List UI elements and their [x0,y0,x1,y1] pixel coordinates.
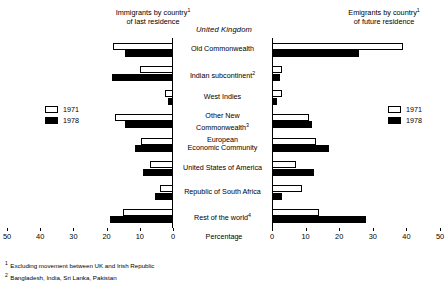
tick-label: 40 [402,232,410,241]
axis-caption: Percentage [188,232,260,241]
tick-label: 40 [36,232,44,241]
bar-right-1971 [272,138,316,145]
tick-label: 20 [102,232,110,241]
category-label: Republic of South Africa [173,188,272,196]
category-label: United States of America [173,164,272,172]
tick-mark [73,228,74,231]
legend-swatch-1971-icon [388,106,401,113]
right-heading-line2: of future residence [354,17,414,26]
bar-left-1978 [135,145,173,152]
legend-left-item-1971: 1971 [45,104,79,115]
footnote: 1Excluding movement between UK and Irish… [5,259,305,271]
immigrants-plot-area [7,38,173,228]
category-label: Rest of the world4 [173,211,272,223]
tick-label: 10 [301,232,309,241]
bar-right-1971 [272,66,282,73]
legend-swatch-1978-icon [45,117,58,124]
tick-label: 30 [69,232,77,241]
legend-right: 1971 1978 [388,104,422,126]
tick-mark [107,228,108,231]
tick-label: 0 [171,232,175,241]
bar-right-1978 [272,216,366,223]
legend-left: 1971 1978 [45,104,79,126]
bar-right-1971 [272,185,302,192]
tick-label: 50 [436,232,444,241]
footnote: 2Bangladesh, India, Sri Lanka, Pakistan [5,271,305,283]
tick-label: 30 [369,232,377,241]
bar-left-1978 [112,74,173,81]
chart-title: United Kingdom [150,25,298,34]
category-label: Other NewCommonwealth3 [173,112,272,132]
category-label-column: Old CommonwealthIndian subcontinent2West… [173,38,272,228]
bar-right-1971 [272,90,282,97]
tick-mark [339,228,340,231]
footnote-number: 1 [5,260,8,266]
right-axis-ticks: 01020304050 [268,228,448,244]
chart-root: Immigrants by country1 of last residence… [0,0,448,283]
bar-right-1978 [272,169,314,176]
legend-left-item-1978: 1978 [45,115,79,126]
footnote-text: Excluding movement between UK and Irish … [10,262,154,269]
right-panel-heading: Emigrants by country1 of future residenc… [320,6,448,27]
bar-right-1978 [272,193,282,200]
tick-label: 20 [335,232,343,241]
legend-right-label-1978: 1978 [406,116,422,125]
bar-right-1978 [272,145,329,152]
bar-left-1978 [125,121,173,128]
bar-right-1978 [272,98,277,105]
bar-left-1978 [155,193,173,200]
category-footnote-ref: 4 [248,212,251,218]
bar-right-1971 [272,114,309,121]
category-label: Old Commonwealth [173,45,272,53]
bar-right-1971 [272,43,403,50]
category-label: West Indies [173,93,272,101]
bar-left-1978 [143,169,173,176]
tick-label: 50 [3,232,11,241]
legend-right-label-1971: 1971 [406,105,422,114]
tick-mark [7,228,8,231]
footnotes: 1Excluding movement between UK and Irish… [5,259,305,282]
category-footnote-ref: 3 [246,122,249,128]
bar-right-1978 [272,121,312,128]
tick-label: 10 [136,232,144,241]
tick-mark [140,228,141,231]
bar-left-1971 [113,43,173,50]
legend-right-item-1978: 1978 [388,115,422,126]
bar-left-1971 [165,90,173,97]
bar-left-1971 [141,138,173,145]
right-heading-footnote-ref: 1 [417,7,420,13]
bar-left-1971 [150,161,173,168]
bar-left-1978 [110,216,173,223]
tick-mark [173,228,174,231]
bar-right-1978 [272,74,280,81]
footnote-text: Bangladesh, India, Sri Lanka, Pakistan [10,274,116,281]
category-label: EuropeanEconomic Community [173,136,272,153]
footnote-number: 2 [5,272,8,278]
bar-left-1971 [160,185,173,192]
left-axis-ticks: 50403020100 [0,228,180,244]
bar-right-1978 [272,50,359,57]
legend-swatch-1978-icon [388,117,401,124]
tick-mark [406,228,407,231]
tick-label: 0 [270,232,274,241]
bar-left-1971 [140,66,173,73]
bar-right-1971 [272,161,296,168]
category-footnote-ref: 2 [252,70,255,76]
category-label: Indian subcontinent2 [173,69,272,81]
tick-mark [440,228,441,231]
tick-mark [272,228,273,231]
left-panel-heading: Immigrants by country1 of last residence [78,6,228,27]
tick-mark [373,228,374,231]
bar-right-1971 [272,209,319,216]
bar-left-1978 [125,50,173,57]
emigrants-plot-area [272,38,440,228]
legend-left-label-1978: 1978 [63,116,79,125]
legend-left-label-1971: 1971 [63,105,79,114]
legend-swatch-1971-icon [45,106,58,113]
left-heading-footnote-ref: 1 [187,7,190,13]
legend-right-item-1971: 1971 [388,104,422,115]
tick-mark [306,228,307,231]
bar-left-1971 [123,209,173,216]
bar-left-1971 [115,114,173,121]
tick-mark [40,228,41,231]
